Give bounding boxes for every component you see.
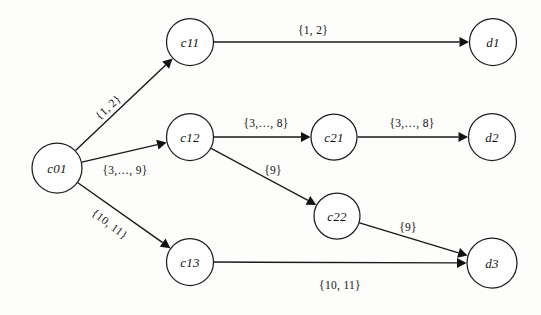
node-label: c11 [181,35,199,50]
edge-line [211,148,308,200]
edge-c01-to-c12 [82,140,167,162]
node-label: d1 [486,35,499,50]
node-c22[interactable]: c22 [314,193,360,239]
edge-label-c01-to-c13: {10, 11} [89,207,130,243]
node-label: d3 [485,256,499,271]
edge-c11-to-d1 [214,37,469,47]
edge-label-c12-to-c21: {3,…, 8} [243,117,288,130]
arrow-head-icon [156,140,166,150]
edge-label-c01-to-c12: {3,…, 9} [102,164,147,177]
nodes-layer: c01c11c12c13c21c22d1d2d3 [32,19,517,289]
edge-label-c11-to-d1: {1, 2} [298,24,328,37]
node-label: d2 [485,130,499,145]
edge-label-c22-to-d3: {9} [399,221,417,233]
node-c11[interactable]: c11 [167,19,214,66]
arrow-head-icon [457,248,468,258]
network-diagram: c01c11c12c13c21c22d1d2d3 {1, 2}{3,…, 9}{… [0,0,541,315]
edge-c13-to-d3 [214,258,467,268]
edge-c12-to-c21 [214,132,311,142]
edge-labels-layer: {1, 2}{3,…, 9}{10, 11}{1, 2}{3,…, 8}{9}{… [89,24,434,292]
edge-line [214,262,457,263]
edge-label-c12-to-c22: {9} [264,164,282,176]
edge-label-c01-to-c11: {1, 2} [93,92,124,122]
node-c12[interactable]: c12 [167,114,214,161]
arrow-head-icon [459,132,469,142]
node-label: c01 [47,161,66,176]
arrow-head-icon [160,239,171,249]
edge-c01-to-c11 [76,59,173,151]
arrow-head-icon [457,258,467,268]
node-c13[interactable]: c13 [167,239,214,286]
node-label: c13 [180,255,200,270]
edge-c12-to-c22 [211,148,316,205]
node-c01[interactable]: c01 [32,143,82,193]
arrow-head-icon [460,37,470,47]
node-d2[interactable]: d2 [469,114,516,161]
node-label: c22 [327,209,347,224]
node-d3[interactable]: d3 [467,238,517,288]
edge-line [76,65,166,150]
arrow-head-icon [301,132,311,142]
edge-c21-to-d2 [358,132,469,142]
edge-line [82,145,158,163]
edges-layer [76,37,469,268]
node-d1[interactable]: d1 [470,19,517,66]
node-label: c12 [180,130,200,145]
node-label: c21 [324,130,343,145]
edge-label-c13-to-d3: {10, 11} [319,279,361,292]
node-c21[interactable]: c21 [311,114,357,160]
graph-canvas: c01c11c12c13c21c22d1d2d3 {1, 2}{3,…, 9}{… [0,0,541,315]
edge-label-c21-to-d2: {3,…, 8} [389,117,434,130]
